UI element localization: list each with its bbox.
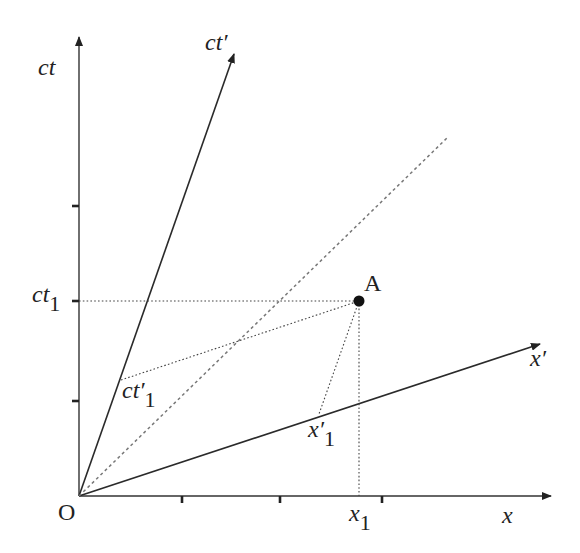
ct-axis-label: ct [38, 54, 57, 80]
ct-prime-label-main: ct [205, 29, 224, 55]
ct-prime-axis-label: ct′ [205, 29, 228, 55]
ct1-label-main: ct [32, 281, 51, 307]
x-prime-label-main: x [529, 345, 541, 371]
ct1-label: ct1 [32, 281, 60, 316]
x1-label-sub: 1 [360, 510, 371, 535]
event-point-a [354, 296, 365, 307]
projection-to-x-prime-1 [319, 301, 359, 414]
x1-label: x1 [348, 500, 371, 535]
x-prime-1-main: x [307, 416, 319, 442]
spacetime-diagram: A O ct x ct′ x′ ct1 x1 ct′1 x′1 [0, 0, 580, 553]
projection-to-ct-prime-1 [121, 301, 359, 380]
ct-prime-axis [79, 54, 234, 496]
event-label-a: A [364, 270, 382, 296]
ct-prime-1-label: ct′1 [122, 377, 156, 412]
x-prime-1-sub: 1 [324, 426, 335, 451]
origin-label: O [58, 499, 75, 525]
x-prime-1-label: x′1 [307, 416, 335, 451]
ct-prime-1-sub: 1 [145, 387, 156, 412]
ct1-label-sub: 1 [49, 291, 60, 316]
x-prime-axis-label: x′ [529, 345, 547, 371]
x-prime-label-prime: ′ [541, 345, 547, 371]
ct-prime-label-prime: ′ [222, 29, 228, 55]
x-axis-label: x [501, 502, 513, 528]
x1-label-main: x [348, 500, 360, 526]
light-line [79, 137, 448, 496]
ct-prime-1-main: ct [122, 377, 141, 403]
